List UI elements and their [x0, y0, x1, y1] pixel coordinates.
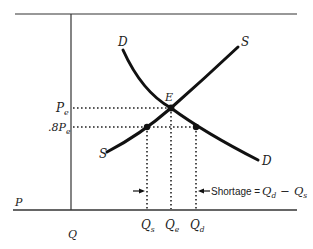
- supply-label-top: S: [241, 35, 249, 49]
- quantity-supplied-point: [144, 124, 150, 130]
- qs-label: Qs: [141, 218, 155, 234]
- right-arrow-icon: [198, 189, 210, 194]
- ceiling-price-label: .8Pe: [48, 121, 71, 136]
- equilibrium-point: [168, 105, 175, 112]
- supply-label-bottom: S: [99, 147, 107, 161]
- qe-label: Qe: [165, 218, 180, 234]
- quantity-axis-label: Q: [68, 228, 77, 241]
- left-arrow-icon: [133, 189, 145, 194]
- quantity-demanded-point: [193, 124, 199, 130]
- demand-curve: [123, 50, 258, 160]
- shortage-formula: Qd−Qs: [262, 184, 307, 200]
- shortage-annotation: Shortage =: [211, 186, 260, 197]
- qd-label: Qd: [190, 218, 205, 234]
- demand-label-bottom: D: [261, 154, 272, 168]
- demand-label-top: D: [117, 35, 128, 49]
- pe-label: Pe: [55, 101, 69, 117]
- equilibrium-label: E: [164, 91, 173, 104]
- shortage-diagram: D S E S D Pe .8Pe Qs Qe Qd P Q Shortage …: [0, 0, 313, 249]
- price-axis-label: P: [14, 196, 23, 209]
